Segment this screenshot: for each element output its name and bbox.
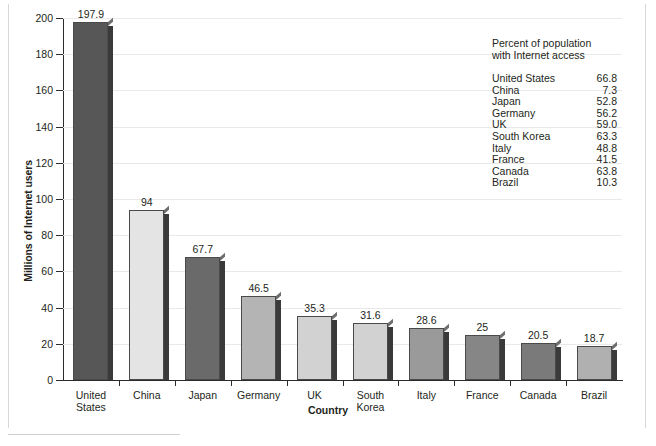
figure-page: Millions of Internet users Country 02040… <box>0 0 656 446</box>
bar-value-label: 67.7 <box>173 243 232 255</box>
bar-body <box>73 22 108 380</box>
bar-body <box>577 346 612 380</box>
bar-body <box>353 323 388 380</box>
y-axis-label: 160 <box>11 85 53 96</box>
bar-side-shadow <box>220 261 225 380</box>
legend-row: South Korea63.3 <box>492 131 617 143</box>
y-axis-label: 200 <box>11 13 53 24</box>
legend-row-percent: 10.3 <box>589 177 617 189</box>
x-axis-label-line: Italy <box>398 390 454 402</box>
x-axis-label-line: Japan <box>175 390 231 402</box>
page-left-rule <box>8 4 9 428</box>
bar-body <box>297 316 332 380</box>
y-axis-tick <box>56 199 63 200</box>
y-axis-tick <box>56 344 63 345</box>
bar-value-label: 18.7 <box>565 332 624 344</box>
bar-body <box>409 328 444 380</box>
x-axis-label-line: Canada <box>510 390 566 402</box>
legend-table: Percent of population with Internet acce… <box>492 38 617 189</box>
legend-row-percent: 41.5 <box>589 154 617 166</box>
y-axis-label: 40 <box>11 303 53 314</box>
bar-value-label: 31.6 <box>341 309 400 321</box>
bar[interactable]: 46.5 <box>241 296 276 380</box>
x-axis-label: UK <box>287 390 343 402</box>
legend-row-country: France <box>492 154 525 166</box>
x-axis-label-line: UK <box>287 390 343 402</box>
legend-title-line-1: Percent of population <box>492 38 617 50</box>
bar[interactable]: 25 <box>465 335 500 380</box>
y-axis-title: Millions of Internet users <box>22 160 36 282</box>
y-axis-tick <box>56 163 63 164</box>
y-axis-tick <box>56 127 63 128</box>
y-axis-label: 180 <box>11 49 53 60</box>
legend-row-percent: 63.3 <box>589 131 617 143</box>
legend-title-line-2: with Internet access <box>492 50 617 62</box>
x-axis-label-line: South <box>343 390 399 402</box>
bar-body <box>521 343 556 380</box>
legend-row-country: South Korea <box>492 131 550 143</box>
x-axis-tick <box>231 380 232 386</box>
x-axis-label: China <box>119 390 175 402</box>
x-axis-label: Germany <box>231 390 287 402</box>
bar-side-shadow <box>276 300 281 380</box>
x-axis-label: SouthKorea <box>343 390 399 413</box>
y-axis-tick <box>56 54 63 55</box>
x-axis-label-line: Korea <box>343 402 399 414</box>
legend-row-percent: 66.8 <box>589 73 617 85</box>
x-axis-label-line: Germany <box>231 390 287 402</box>
x-axis-label: Italy <box>398 390 454 402</box>
bar-side-shadow <box>332 320 337 380</box>
bar[interactable]: 94 <box>129 210 164 380</box>
legend-row-country: United States <box>492 73 555 85</box>
bar-side-shadow <box>164 214 169 380</box>
x-axis-tick <box>343 380 344 386</box>
bar[interactable]: 20.5 <box>521 343 556 380</box>
bar-value-label: 94 <box>117 196 176 208</box>
bar[interactable]: 31.6 <box>353 323 388 380</box>
bar[interactable]: 28.6 <box>409 328 444 380</box>
y-axis-tick <box>56 90 63 91</box>
x-axis-label-line: United <box>63 390 119 402</box>
y-axis-label: 120 <box>11 158 53 169</box>
bar-value-label: 28.6 <box>397 314 456 326</box>
x-axis-label-line: China <box>119 390 175 402</box>
x-axis-label: Canada <box>510 390 566 402</box>
legend-row-country: Brazil <box>492 177 518 189</box>
legend-rows: United States66.8China7.3Japan52.8German… <box>492 73 617 189</box>
y-axis-label: 0 <box>11 375 53 386</box>
gridline <box>63 18 622 19</box>
y-axis-tick <box>56 380 63 381</box>
bar-value-label: 46.5 <box>229 282 288 294</box>
bar-side-shadow <box>108 26 113 380</box>
x-axis-label: France <box>454 390 510 402</box>
bar[interactable]: 197.9 <box>73 22 108 380</box>
bar-body <box>129 210 164 380</box>
bar-side-shadow <box>556 347 561 380</box>
bar-value-label: 20.5 <box>509 329 568 341</box>
bar-value-label: 197.9 <box>61 8 120 20</box>
bar-side-shadow <box>500 339 505 380</box>
x-axis-label-line: France <box>454 390 510 402</box>
bar-value-label: 25 <box>453 321 512 333</box>
x-axis-label: Japan <box>175 390 231 402</box>
x-axis-label-line: States <box>63 402 119 414</box>
x-axis-tick <box>566 380 567 386</box>
x-axis-tick <box>398 380 399 386</box>
bar[interactable]: 18.7 <box>577 346 612 380</box>
x-axis-tick <box>510 380 511 386</box>
legend-title: Percent of population with Internet acce… <box>492 38 617 61</box>
x-axis-label-line: Brazil <box>566 390 622 402</box>
page-right-rule <box>645 4 646 428</box>
bar-side-shadow <box>444 332 449 380</box>
bar-body <box>185 257 220 380</box>
bar-body <box>241 296 276 380</box>
bar-body <box>465 335 500 380</box>
x-axis-tick <box>454 380 455 386</box>
legend-row: Brazil10.3 <box>492 177 617 189</box>
x-axis-label: UnitedStates <box>63 390 119 413</box>
bar[interactable]: 35.3 <box>297 316 332 380</box>
bar[interactable]: 67.7 <box>185 257 220 380</box>
y-axis-label: 100 <box>11 194 53 205</box>
y-axis-tick <box>56 308 63 309</box>
caption-rule <box>8 434 180 435</box>
